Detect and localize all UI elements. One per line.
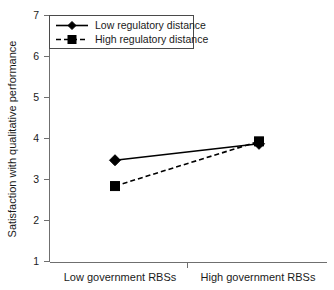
y-tick-label-7: 7 xyxy=(33,9,39,21)
y-tick-label-5: 5 xyxy=(33,91,39,103)
data-point-high-left xyxy=(111,182,120,191)
y-axis-title: Satisfaction with qualitative performanc… xyxy=(6,41,18,238)
legend-square-marker-icon xyxy=(68,36,76,44)
y-tick-label-6: 6 xyxy=(33,50,39,62)
x-axis-label-high: High government RBSs xyxy=(201,271,316,283)
legend-label-low: Low regulatory distance xyxy=(95,19,206,31)
y-tick-label-2: 2 xyxy=(33,214,39,226)
x-axis-label-low: Low government RBSs xyxy=(64,271,177,283)
line-chart: 7 6 5 4 3 2 1 Satisfaction with qualitat… xyxy=(0,0,334,290)
y-tick-label-3: 3 xyxy=(33,173,39,185)
series-low-regulatory-distance-line xyxy=(115,144,259,160)
y-tick-label-4: 4 xyxy=(33,132,39,144)
legend: Low regulatory distance High regulatory … xyxy=(50,16,209,49)
data-point-high-right xyxy=(255,137,264,146)
legend-label-high: High regulatory distance xyxy=(95,33,208,45)
chart-container: 7 6 5 4 3 2 1 Satisfaction with qualitat… xyxy=(0,0,334,290)
y-tick-label-1: 1 xyxy=(33,255,39,267)
data-point-low-left xyxy=(110,155,121,166)
series-high-regulatory-distance-line xyxy=(115,141,259,186)
